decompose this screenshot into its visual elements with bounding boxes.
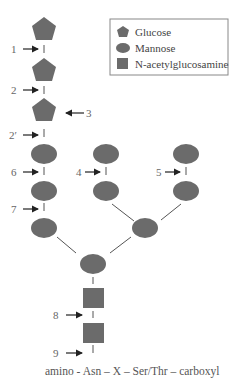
nag-legend-icon bbox=[117, 58, 128, 69]
mannose-a-icon bbox=[31, 144, 57, 164]
bond-label-2: 2 bbox=[11, 84, 17, 96]
glucose-2-icon bbox=[32, 58, 56, 81]
glucose-1-icon bbox=[32, 17, 56, 40]
oligosaccharide-diagram: Glucose Mannose N-acetylglucosamine bbox=[0, 0, 243, 388]
bond-label-4: 4 bbox=[76, 166, 82, 178]
bond-label-9: 9 bbox=[53, 347, 59, 359]
legend-glucose-label: Glucose bbox=[135, 26, 171, 38]
bond-label-8: 8 bbox=[53, 309, 59, 321]
bond-label-2prime: 2′ bbox=[9, 129, 17, 141]
mannose-f-icon bbox=[173, 181, 199, 201]
mannose-c-icon bbox=[173, 144, 199, 164]
bond-label-7: 7 bbox=[11, 203, 17, 215]
mannose-e-icon bbox=[93, 181, 119, 201]
bond-label-5: 5 bbox=[156, 166, 162, 178]
peptide-sequence: amino - Asn – X – Ser/Thr – carboxyl bbox=[45, 365, 219, 378]
mannose-core-icon bbox=[80, 254, 106, 274]
nag-2-icon bbox=[83, 323, 104, 343]
nag-1-icon bbox=[83, 288, 104, 308]
mannose-b-icon bbox=[93, 144, 119, 164]
legend-mannose-label: Mannose bbox=[135, 42, 175, 54]
mannose-d-icon bbox=[31, 181, 57, 201]
legend: Glucose Mannose N-acetylglucosamine bbox=[110, 19, 229, 75]
glucose-3-icon bbox=[32, 98, 56, 121]
bond-label-1: 1 bbox=[11, 43, 17, 55]
mannose-g-icon bbox=[31, 218, 57, 238]
mannose-legend-icon bbox=[116, 43, 130, 53]
bond-label-6: 6 bbox=[11, 166, 17, 178]
bond-label-3: 3 bbox=[86, 107, 92, 119]
mannose-h-icon bbox=[132, 218, 158, 238]
legend-nag-label: N-acetylglucosamine bbox=[135, 58, 229, 70]
